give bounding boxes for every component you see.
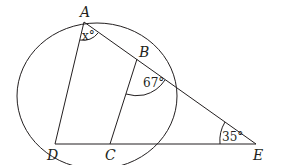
label-d: D: [46, 147, 58, 163]
label-b: B: [138, 44, 149, 60]
angle-label-x: x°: [82, 29, 95, 43]
segment-bc: [110, 59, 137, 144]
label-c: C: [105, 147, 116, 163]
angle-arc-b-inner: [126, 94, 144, 96]
geometry-diagram: A B C D E x° 67° 35°: [0, 0, 283, 165]
angle-label-35: 35°: [222, 130, 243, 144]
segment-ad: [55, 22, 84, 144]
label-e: E: [252, 147, 263, 163]
angle-label-67: 67°: [143, 76, 164, 90]
label-a: A: [78, 4, 90, 20]
